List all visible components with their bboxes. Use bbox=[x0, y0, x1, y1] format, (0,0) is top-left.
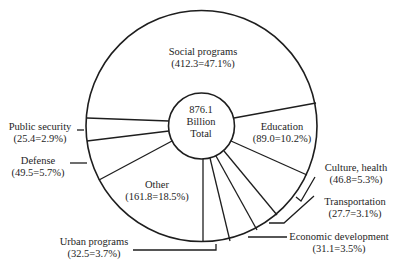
segment-name: Culture, health bbox=[318, 162, 394, 174]
segment-value: (32.5=3.7%) bbox=[54, 248, 134, 260]
leader-urban-programs bbox=[133, 244, 216, 250]
divider-culture-transportation bbox=[224, 151, 277, 215]
segment-name: Education bbox=[250, 121, 314, 133]
segment-name: Other bbox=[121, 179, 193, 191]
label-education: Education (89.0=10.2%) bbox=[250, 121, 314, 145]
divider-publicsecurity-social bbox=[87, 118, 169, 121]
label-public-security: Public security (25.4=2.9%) bbox=[4, 121, 76, 145]
segment-name: Urban programs bbox=[54, 236, 134, 248]
divider-defense-publicsecurity bbox=[87, 131, 169, 141]
label-economic-development: Economic development (31.1=3.5%) bbox=[284, 231, 394, 255]
divider-other-defense bbox=[99, 141, 172, 180]
segment-value: (89.0=10.2%) bbox=[250, 133, 314, 145]
divider-education-culture bbox=[231, 141, 307, 175]
label-social-programs: Social programs (412.3=47.1%) bbox=[148, 46, 258, 70]
divider-social-education bbox=[234, 103, 316, 118]
label-culture-health: Culture, health (46.8=5.3%) bbox=[318, 162, 394, 186]
center-total-unit: Billion bbox=[169, 116, 233, 128]
segment-name: Social programs bbox=[148, 46, 258, 58]
segment-name: Public security bbox=[4, 121, 76, 133]
label-urban-programs: Urban programs (32.5=3.7%) bbox=[54, 236, 134, 260]
segment-value: (31.1=3.5%) bbox=[284, 243, 394, 255]
segment-value: (412.3=47.1%) bbox=[148, 58, 258, 70]
label-defense: Defense (49.5=5.7%) bbox=[8, 155, 68, 179]
segment-name: Economic development bbox=[284, 231, 394, 243]
leader-transportation bbox=[269, 196, 314, 223]
segment-name: Defense bbox=[8, 155, 68, 167]
center-total-label: 876.1 Billion Total bbox=[169, 104, 233, 140]
divider-economic-urban bbox=[210, 158, 230, 241]
center-total-caption: Total bbox=[169, 128, 233, 140]
segment-value: (161.8=18.5%) bbox=[121, 191, 193, 203]
segment-value: (25.4=2.9%) bbox=[4, 133, 76, 145]
segment-value: (49.5=5.7%) bbox=[8, 167, 68, 179]
segment-name: Transportation bbox=[320, 196, 390, 208]
label-other: Other (161.8=18.5%) bbox=[121, 179, 193, 203]
label-transportation: Transportation (27.7=3.1%) bbox=[320, 196, 390, 220]
segment-value: (46.8=5.3%) bbox=[318, 174, 394, 186]
segment-value: (27.7=3.1%) bbox=[320, 208, 390, 220]
center-total-value: 876.1 bbox=[169, 104, 233, 116]
